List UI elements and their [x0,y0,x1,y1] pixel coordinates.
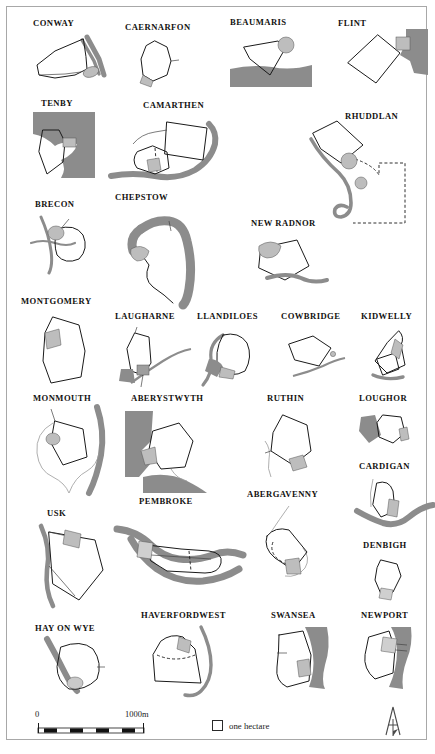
town-wall-caernarfon [141,41,171,81]
town-label-ruthin: RUTHIN [267,394,304,403]
estuary-laugharne [119,369,135,383]
town-plan-beaumaris [226,31,316,89]
town-label-flint: FLINT [338,19,367,28]
river-new-radnor [267,275,327,282]
town-wall-montgomery [43,317,85,383]
street-cardigan [370,479,373,507]
town-wall-swansea [277,631,311,687]
town-label-chepstow: CHEPSTOW [115,193,168,202]
town-label-monmouth: MONMOUTH [33,394,91,403]
town-plan-newport [355,625,433,695]
castle-denbigh [379,588,393,600]
castle-chepstow [131,246,149,261]
river-clwyd-ruthin [265,441,271,477]
town-plan-ruthin [255,407,329,481]
castle-rhuddlan-2 [355,177,367,189]
town-label-conway: CONWAY [33,19,74,28]
town-label-kidwelly: KIDWELLY [361,312,412,321]
castle-pembroke [137,541,153,559]
river-usk-newport [389,627,412,689]
street-caernarfon [171,60,179,61]
river-cleddau [185,627,211,696]
sea-beaumaris [230,65,312,87]
town-label-laugharne: LAUGHARNE [115,312,175,321]
castle-brecon [48,226,64,240]
street-monmouth [51,409,55,421]
castle-loughor [399,427,409,441]
town-plan-new-radnor [245,232,331,290]
town-plan-aberystwyth [125,407,211,493]
town-plan-loughor [355,407,425,461]
town-plan-kidwelly [361,325,427,389]
town-plan-abergavenny [245,504,329,582]
river-honddu [31,241,75,245]
town-label-haverfordwest: HAVERFORDWEST [141,611,226,620]
castle-cowbridge [330,351,335,356]
town-plan-conway [25,31,111,89]
street-abergavenny [271,506,289,532]
castle-montgomery [45,329,61,349]
town-label-denbigh: DENBIGH [363,541,407,550]
scale-end-label: 1000m [125,709,149,719]
castle-usk [63,530,81,548]
town-plan-denbigh [359,554,419,606]
plate-frame: CONWAY CAERNARFON [6,6,427,740]
legend: one hectare [212,720,269,731]
town-plan-brecon [29,213,103,275]
figure-plate: CONWAY CAERNARFON [0,0,435,754]
sea-flint [400,29,428,75]
town-label-loughor: LOUGHOR [359,394,407,403]
town-wall-camarthen-new [165,122,207,160]
town-plan-cowbridge [279,326,357,386]
castle-abergavenny [285,558,301,574]
castle-new-radnor [259,242,281,258]
town-plan-pembroke [117,511,247,591]
scale-start-label: 0 [35,709,39,719]
castle-flint [396,37,410,50]
town-label-abergavenny: ABERGAVENNY [247,490,318,499]
castle-tenby [63,138,76,147]
town-plan-chepstow [111,207,219,305]
river-clwyd [311,139,351,217]
town-plan-laugharne [111,325,193,389]
scale-seg [96,728,109,732]
sea-swansea [305,627,329,689]
scale-seg [44,728,57,732]
town-plan-camarthen [111,114,237,188]
north-arrow-icon [382,705,404,739]
town-plan-swansea [265,625,343,697]
north-arrow-head [393,729,398,736]
town-wall-denbigh [375,560,401,594]
river-wye [141,221,191,305]
town-label-tenby: TENBY [41,99,73,108]
town-label-brecon: BRECON [35,200,74,209]
river-thaw [293,358,345,376]
town-label-aberystwyth: ABERYSTWYTH [131,394,203,403]
street-ruthin [265,451,271,453]
castle-monmouth [46,433,60,445]
town-wall-cowbridge [289,336,331,366]
town-label-swansea: SWANSEA [271,611,316,620]
castle-hay [67,677,83,689]
river-gwendraeth [373,375,403,379]
one-hectare-square-icon [212,720,223,731]
castle-llandiloes [219,367,235,379]
town-plan-cardigan [355,475,435,533]
castle-haverfordwest [177,637,191,653]
town-label-new-radnor: NEW RADNOR [251,219,316,228]
castle-newport [381,637,397,653]
town-plan-caernarfon [129,37,191,93]
town-label-cowbridge: COWBRIDGE [281,312,340,321]
town-plan-usk [29,522,117,608]
scale-bar [38,723,144,737]
town-wall-flint [348,35,400,83]
estuary-aberystwyth [143,475,207,493]
castle-camarthen [147,158,161,172]
town-plan-tenby [33,112,97,178]
town-plan-haverfordwest [139,625,237,699]
town-plan-montgomery [29,311,103,389]
town-wall-ruthin [271,415,311,465]
town-label-usk: USK [47,509,66,518]
river-usk-brecon [41,217,52,273]
boundary-rhuddlan [353,159,405,223]
